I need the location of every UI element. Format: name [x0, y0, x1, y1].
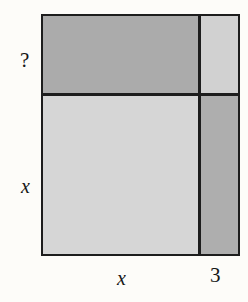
bottom-width-label-three: 3 [210, 265, 221, 286]
left-height-label-x: x [21, 176, 30, 196]
top-right-region [199, 16, 238, 95]
top-left-region [43, 16, 199, 95]
area-model-figure [41, 14, 240, 256]
horizontal-divider-line [43, 93, 238, 96]
bottom-width-label-x: x [117, 268, 126, 288]
vertical-divider-line [198, 16, 201, 254]
bottom-right-region [199, 95, 238, 254]
diagram-canvas: ? x x 3 [0, 0, 248, 302]
left-height-label-unknown: ? [20, 50, 29, 71]
bottom-left-region [43, 95, 199, 254]
